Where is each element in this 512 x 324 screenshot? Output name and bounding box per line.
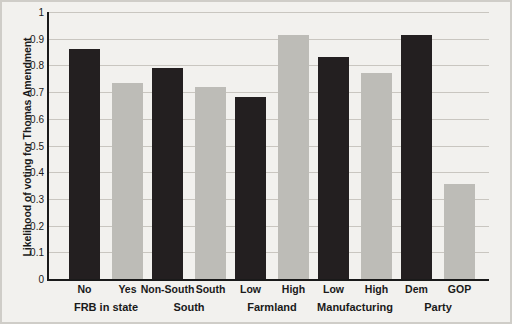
bar (401, 35, 432, 279)
group-label: Party (424, 301, 452, 313)
bar (235, 97, 266, 279)
y-tick-label: 1 (38, 7, 44, 18)
y-tick-label: 0.2 (30, 220, 44, 231)
group-label: South (173, 301, 204, 313)
bar (152, 68, 183, 279)
category-label: Yes (118, 283, 136, 295)
group-label: FRB in state (74, 301, 138, 313)
bar (195, 87, 226, 279)
group-label: Manufacturing (317, 301, 393, 313)
bar (444, 184, 475, 279)
group-label: Farmland (247, 301, 297, 313)
category-label: Low (323, 283, 344, 295)
bar (361, 73, 392, 279)
category-label: South (196, 283, 226, 295)
category-label: Dem (405, 283, 428, 295)
category-label: Low (240, 283, 261, 295)
y-tick-label: 0.7 (30, 87, 44, 98)
gridline (49, 12, 489, 13)
bar (69, 49, 100, 279)
scan-edge-top (0, 0, 512, 2)
category-label: No (78, 283, 92, 295)
y-tick-label: 0.8 (30, 60, 44, 71)
y-tick-label: 0.3 (30, 193, 44, 204)
y-tick-label: 0.9 (30, 33, 44, 44)
y-tick-label: 0 (38, 274, 44, 285)
bar (278, 35, 309, 279)
y-tick-label: 0.6 (30, 113, 44, 124)
category-label: High (282, 283, 305, 295)
plot-area: 00.10.20.30.40.50.60.70.80.91 NoYesNon-S… (47, 12, 489, 281)
bar (318, 57, 349, 279)
y-tick-label: 0.5 (30, 140, 44, 151)
chart-page: Likelihood of voting for Thomas Amendmen… (0, 0, 512, 324)
y-tick-label: 0.4 (30, 167, 44, 178)
y-tick-label: 0.1 (30, 247, 44, 258)
bar (112, 83, 143, 279)
category-label: High (365, 283, 388, 295)
category-label: GOP (448, 283, 471, 295)
category-label: Non-South (141, 283, 195, 295)
scan-edge-left (0, 0, 2, 324)
